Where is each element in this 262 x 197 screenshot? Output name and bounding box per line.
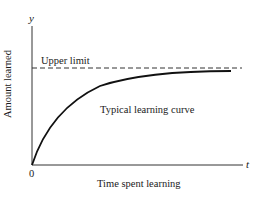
t-axis-variable: t <box>246 158 249 170</box>
y-axis-variable: y <box>29 12 34 24</box>
learning-curve <box>32 71 231 165</box>
x-axis-label: Time spent learning <box>97 178 181 189</box>
y-axis-label: Amount learned <box>2 50 13 118</box>
origin-label: 0 <box>29 168 34 179</box>
learning-curve-plot <box>0 0 262 197</box>
upper-limit-label: Upper limit <box>41 55 90 66</box>
curve-label: Typical learning curve <box>100 104 194 115</box>
